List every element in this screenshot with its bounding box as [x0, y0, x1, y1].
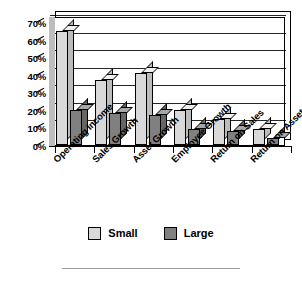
plot-left-wall — [49, 17, 55, 146]
legend-item: Small — [88, 227, 137, 240]
bar-front-face — [174, 110, 186, 145]
bar-top-face — [76, 104, 94, 110]
bar-small — [56, 31, 68, 145]
legend-label: Small — [108, 227, 137, 239]
y-axis: 70%60%50%40%30%20%10%0% — [0, 17, 46, 146]
bottom-separator-rule — [62, 268, 240, 269]
bar-top-face — [101, 74, 119, 80]
gridline — [50, 68, 286, 69]
legend-item: Large — [164, 227, 214, 240]
gridline — [50, 50, 286, 51]
bar-front-face — [135, 73, 147, 145]
x-axis-tick-mark — [291, 146, 292, 153]
bar-small — [174, 110, 186, 145]
gridline — [50, 33, 286, 34]
legend-swatch — [164, 227, 177, 240]
chart-legend: SmallLarge — [0, 222, 302, 244]
gridline — [50, 15, 286, 16]
bar-chart-figure: 70%60%50%40%30%20%10%0% Operating Income… — [0, 0, 302, 282]
bar-top-face — [259, 123, 277, 129]
gridline — [50, 85, 286, 86]
legend-label: Large — [184, 227, 214, 239]
bar-front-face — [56, 31, 68, 145]
bar-top-face — [155, 109, 173, 115]
x-axis-line — [49, 146, 291, 147]
bar-top-face — [115, 107, 133, 113]
legend-swatch — [88, 227, 101, 240]
bar-top-face — [180, 104, 198, 110]
bar-top-face — [62, 25, 80, 31]
bar-small — [135, 73, 147, 145]
